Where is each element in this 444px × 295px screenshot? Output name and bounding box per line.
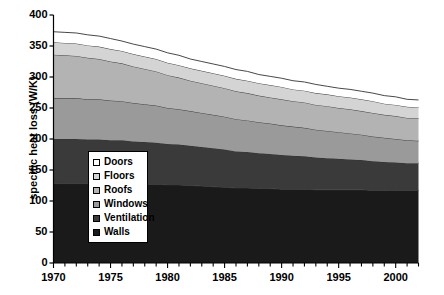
x-tick-label: 1995	[319, 271, 359, 283]
y-tick-label: 50	[14, 225, 48, 237]
y-tick-label: 250	[14, 101, 48, 113]
legend-label: Windows	[104, 199, 148, 209]
y-tick-label: 300	[14, 70, 48, 82]
y-tick-label: 350	[14, 39, 48, 51]
legend-label: Walls	[104, 227, 130, 237]
legend-swatch-icon	[93, 201, 100, 208]
stacked-area-chart: specific heat loss (W/K) 050100150200250…	[0, 0, 444, 295]
y-tick-label: 100	[14, 194, 48, 206]
x-tick-label: 2000	[376, 271, 416, 283]
legend-item-windows[interactable]: Windows	[93, 197, 142, 211]
x-tick-label: 1980	[148, 271, 188, 283]
x-tick-label: 1990	[262, 271, 302, 283]
legend-swatch-icon	[93, 173, 100, 180]
legend-swatch-icon	[93, 187, 100, 194]
x-tick-label: 1985	[205, 271, 245, 283]
chart-legend: DoorsFloorsRoofsWindowsVentilationWalls	[88, 151, 148, 243]
x-tick-label: 1970	[34, 271, 74, 283]
legend-label: Floors	[104, 171, 135, 181]
legend-item-walls[interactable]: Walls	[93, 225, 142, 239]
plot-area	[0, 0, 444, 295]
legend-label: Ventilation	[104, 213, 155, 223]
legend-item-floors[interactable]: Floors	[93, 169, 142, 183]
legend-swatch-icon	[93, 229, 100, 236]
legend-swatch-icon	[93, 215, 100, 222]
y-tick-label: 0	[14, 256, 48, 268]
legend-label: Roofs	[104, 185, 132, 195]
legend-label: Doors	[104, 157, 133, 167]
legend-item-ventilation[interactable]: Ventilation	[93, 211, 142, 225]
legend-swatch-icon	[93, 159, 100, 166]
y-tick-label: 400	[14, 8, 48, 20]
y-tick-label: 150	[14, 163, 48, 175]
legend-item-doors[interactable]: Doors	[93, 155, 142, 169]
x-axis-ticks	[54, 263, 419, 268]
x-tick-label: 1975	[91, 271, 131, 283]
legend-item-roofs[interactable]: Roofs	[93, 183, 142, 197]
y-tick-label: 200	[14, 132, 48, 144]
